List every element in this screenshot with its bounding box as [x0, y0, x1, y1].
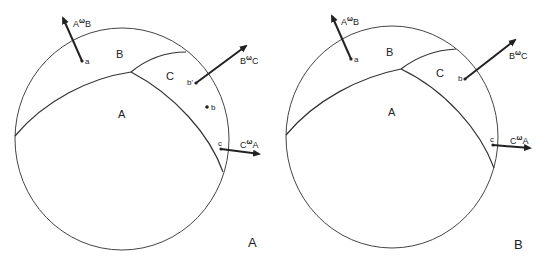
- region-label-b: B: [386, 46, 393, 58]
- sphere-outline: [15, 28, 229, 250]
- point-label-b-prime: b': [187, 78, 193, 87]
- point-label-b: b: [458, 74, 463, 83]
- boundary-b-c: [401, 49, 456, 69]
- point-a-dot: [80, 59, 83, 62]
- region-label-a: A: [388, 106, 396, 118]
- vector-label-cwa: CωA: [240, 138, 258, 150]
- vector-label-bwc: BωC: [240, 54, 259, 66]
- vector-arrow-bwc: [196, 46, 246, 83]
- point-label-a: a: [85, 57, 90, 66]
- plate-diagram: B C A a AωB b' BωC b c CωA A: [0, 0, 545, 264]
- panel-a: B C A a AωB b' BωC b c CωA A: [15, 17, 259, 250]
- boundary-a-b: [286, 69, 401, 135]
- boundary-a-c: [131, 72, 223, 172]
- vector-label-awb: AωB: [73, 17, 91, 29]
- vector-label-awb: AωB: [341, 15, 359, 27]
- point-b-dot: [463, 77, 466, 80]
- sphere-outline: [286, 26, 498, 248]
- boundary-b-c: [131, 52, 186, 72]
- point-label-a: a: [354, 55, 359, 64]
- point-b-prime-dot: [194, 81, 197, 84]
- vector-label-bwc: BωC: [509, 49, 528, 61]
- panel-b: B C A a AωB b BωC c CωA B: [286, 15, 530, 252]
- point-b-dot: [205, 105, 209, 109]
- region-label-c: C: [166, 70, 174, 82]
- region-label-c: C: [436, 67, 444, 79]
- vector-arrow-bwc: [465, 40, 515, 79]
- point-label-b: b: [211, 103, 216, 112]
- point-label-c: c: [490, 135, 494, 144]
- region-label-b: B: [116, 48, 123, 60]
- boundary-a-c: [401, 69, 494, 168]
- panel-label-b: B: [514, 237, 523, 252]
- boundary-a-b: [15, 72, 131, 136]
- panel-label-a: A: [248, 235, 257, 250]
- point-a-dot: [349, 57, 352, 60]
- point-label-c: c: [218, 139, 222, 148]
- region-label-a: A: [118, 108, 126, 120]
- vector-label-cwa: CωA: [510, 134, 528, 146]
